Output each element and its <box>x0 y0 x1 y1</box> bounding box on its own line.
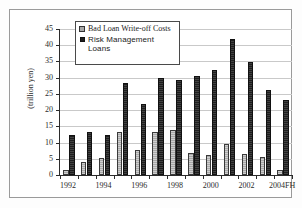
chart-legend: Bad Loan Write-off Costs Risk Management… <box>75 21 180 65</box>
bar <box>99 158 104 175</box>
y-axis-label: 0 <box>35 170 53 179</box>
x-axis-tick <box>114 175 115 179</box>
x-axis-label: 2000 <box>191 181 231 190</box>
bar <box>248 62 253 175</box>
x-axis-tick <box>203 175 204 179</box>
legend-item-bad-loan-write-off-costs: Bad Loan Write-off Costs <box>79 24 176 34</box>
bar-group <box>185 29 203 175</box>
bar <box>188 153 193 175</box>
bar <box>135 150 140 175</box>
chart-frame: (trillion yen) Bad Loan Write-off Costs … <box>9 9 292 198</box>
legend-item-risk-management-loans: Risk Management Loans <box>79 35 176 54</box>
bar-group <box>238 29 256 175</box>
x-axis-label: 1998 <box>155 181 195 190</box>
x-axis-tick <box>149 175 150 179</box>
y-axis-label: 25 <box>35 89 53 98</box>
bar <box>69 135 74 175</box>
bar-group <box>274 29 292 175</box>
figure: (trillion yen) Bad Loan Write-off Costs … <box>0 0 302 208</box>
x-axis-tick <box>238 175 239 179</box>
x-axis-label: 1994 <box>84 181 124 190</box>
y-axis-label: 30 <box>35 73 53 82</box>
bar <box>141 104 146 175</box>
bar <box>230 39 235 175</box>
y-axis-label: 35 <box>35 56 53 65</box>
bar <box>260 157 265 175</box>
bar-group <box>221 29 239 175</box>
y-axis-label: 15 <box>35 121 53 130</box>
bar <box>63 170 68 175</box>
legend-swatch-icon-dark <box>80 37 85 42</box>
bar <box>194 76 199 175</box>
x-axis-label: 1996 <box>119 181 159 190</box>
bar <box>277 170 282 175</box>
x-axis-tick <box>221 175 222 179</box>
legend-label-0: Bad Loan Write-off Costs <box>88 24 171 34</box>
legend-swatch-icon-light <box>79 26 85 32</box>
bar <box>117 132 122 175</box>
bar <box>242 154 247 175</box>
bar <box>81 162 86 175</box>
y-axis-label: 45 <box>35 24 53 33</box>
x-axis-tick <box>167 175 168 179</box>
x-axis-tick <box>274 175 275 179</box>
y-axis-label: 10 <box>35 138 53 147</box>
bar <box>283 100 288 175</box>
y-axis-title: (trillion yen) <box>26 68 35 109</box>
x-axis-tick <box>185 175 186 179</box>
x-axis-tick <box>78 175 79 179</box>
x-axis-tick <box>292 175 293 179</box>
bar-group <box>256 29 274 175</box>
y-axis-label: 20 <box>35 105 53 114</box>
y-axis-label: 5 <box>35 154 53 163</box>
bar <box>170 130 175 175</box>
x-axis-tick <box>96 175 97 179</box>
x-axis-label: 2004FH <box>262 181 302 190</box>
x-axis-tick <box>60 175 61 179</box>
x-axis-label: 2002 <box>226 181 266 190</box>
bar <box>176 80 181 175</box>
bar <box>123 83 128 175</box>
bar <box>152 132 157 175</box>
bar-group <box>203 29 221 175</box>
bar <box>158 78 163 175</box>
bar <box>87 132 92 175</box>
legend-label-1: Risk Management Loans <box>88 35 176 54</box>
x-axis-tick <box>256 175 257 179</box>
y-axis-label: 40 <box>35 40 53 49</box>
bar <box>266 90 271 175</box>
bar <box>206 155 211 175</box>
bar <box>224 144 229 175</box>
x-axis-tick <box>131 175 132 179</box>
x-axis-label: 1992 <box>48 181 88 190</box>
bar <box>105 135 110 175</box>
bar <box>212 70 217 175</box>
